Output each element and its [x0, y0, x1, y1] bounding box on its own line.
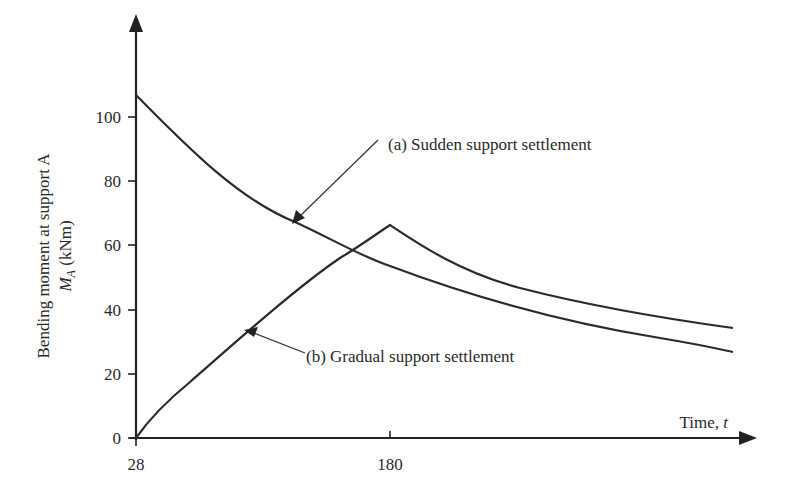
- annotation-b-label: (b) Gradual support settlement: [306, 347, 514, 366]
- y-ticks: [128, 117, 136, 438]
- y-tick-label: 0: [113, 429, 122, 448]
- annotation-a-label: (a) Sudden support settlement: [388, 135, 592, 154]
- annotation-a-leader: [298, 140, 378, 218]
- y-axis-label-line1: Bending moment at support A: [34, 153, 53, 359]
- x-tick-label: 180: [377, 455, 403, 474]
- annotation-a-arrow-icon: [292, 210, 305, 224]
- chart: 0 20 40 60 80 100 28 180 Time, t Bending…: [0, 0, 785, 495]
- x-tick-label: 28: [128, 455, 145, 474]
- series-b-curve: [136, 225, 733, 438]
- y-axis-label: Bending moment at support A MA (kNm): [34, 153, 78, 359]
- y-tick-label: 40: [104, 301, 121, 320]
- x-axis-arrow-icon: [739, 431, 757, 445]
- x-axis-label: Time, t: [679, 413, 729, 432]
- annotation-b-leader: [254, 333, 305, 353]
- y-tick-label: 100: [96, 108, 122, 127]
- y-tick-label: 60: [104, 236, 121, 255]
- y-tick-label: 80: [104, 172, 121, 191]
- y-axis-label-line2: MA (kNm): [56, 220, 78, 292]
- y-tick-label: 20: [104, 365, 121, 384]
- y-axis-arrow-icon: [129, 14, 143, 32]
- x-axis-label-text: Time,: [679, 413, 723, 432]
